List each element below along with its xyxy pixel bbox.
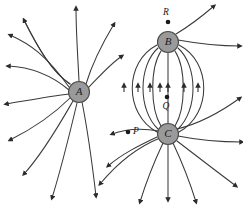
- field-lines-charge-c: [100, 98, 242, 202]
- field-line-b-1: [178, 40, 240, 46]
- field-line-c-6: [177, 141, 236, 186]
- test-points: P Q R: [126, 7, 171, 136]
- field-line-a-4: [6, 94, 69, 104]
- field-line-a-1: [24, 20, 70, 84]
- test-point-dot-q: [165, 95, 170, 100]
- field-line-a-10: [88, 56, 122, 88]
- dipole-arc-r3: [179, 45, 204, 132]
- field-line-c-7: [178, 136, 242, 142]
- field-line: [24, 20, 70, 84]
- field-line-diagram: A B C P Q R: [0, 0, 243, 206]
- field-line-a-3: [8, 66, 69, 90]
- field-line-c-3: [140, 143, 163, 202]
- test-point-dot-p: [126, 130, 131, 135]
- test-point-label-p: P: [132, 126, 139, 136]
- test-point-label-q: Q: [163, 101, 170, 111]
- dipole-arc-r2: [178, 48, 193, 129]
- field-line-a-8: [76, 8, 79, 81]
- charge-label-b: B: [165, 35, 172, 47]
- dipole-arc-r1: [175, 51, 183, 126]
- field-line-a-2: [10, 35, 69, 87]
- field-line-c-2: [100, 138, 160, 184]
- field-line-a-5: [10, 98, 70, 140]
- field-lines-charge-b: [176, 6, 240, 46]
- field-line-a-11: [82, 102, 96, 196]
- test-point-dot-r: [166, 20, 171, 25]
- charge-label-c: C: [164, 127, 172, 139]
- field-line-b-2: [176, 6, 214, 34]
- field-line-c-5: [173, 143, 196, 202]
- test-point-label-r: R: [162, 7, 169, 17]
- dipole-arc-l3: [132, 45, 157, 132]
- field-line-c-9: [108, 137, 157, 166]
- charge-label-a: A: [75, 85, 83, 97]
- field-line-a-6: [24, 101, 73, 174]
- field-line-canvas: A B C P Q R: [0, 0, 243, 206]
- dipole-arrow-row: [124, 85, 198, 92]
- field-lines-charge-a: [6, 8, 122, 198]
- field-line-c-8: [177, 98, 240, 129]
- field-line-a-7: [52, 103, 77, 198]
